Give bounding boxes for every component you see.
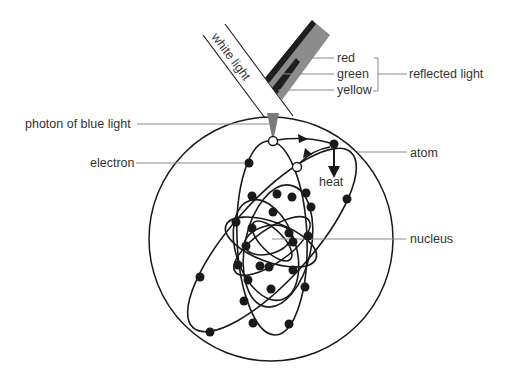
electron-dot [307, 203, 316, 212]
electron-dot [232, 218, 241, 227]
electron-dot [248, 224, 257, 233]
electron-dot [245, 159, 254, 168]
atom-light-diagram: white light red green yellow reflected l… [0, 0, 506, 383]
electron-dot [256, 262, 265, 271]
red-label: red [337, 51, 355, 65]
white-light-label: white light [208, 30, 254, 84]
excited-electron-open [269, 137, 278, 146]
photon-label: photon of blue light [25, 117, 131, 131]
reflected-light-beam [265, 20, 330, 100]
yellow-label: yellow [337, 83, 373, 97]
electron-dot [330, 140, 339, 149]
electron-dot [265, 263, 274, 272]
green-label: green [337, 67, 369, 81]
electron-dot [302, 189, 311, 198]
electron-dot [244, 276, 253, 285]
electron-dot [285, 320, 294, 329]
electron-label: electron [90, 156, 135, 170]
electron-dot [285, 229, 294, 238]
electron-dot [240, 297, 249, 306]
electron-dot [273, 190, 282, 199]
electron-dot [301, 283, 310, 292]
photon-icon [267, 113, 279, 137]
arrow-right-icon [298, 134, 308, 143]
electron-orbits [163, 126, 380, 355]
nucleus-label: nucleus [410, 232, 453, 246]
electron-dot [234, 261, 243, 270]
atom-label: atom [410, 146, 438, 160]
electron-dot [248, 192, 257, 201]
excited-electron-open [293, 163, 302, 172]
electron-dot [288, 193, 297, 202]
electron-dot [304, 232, 313, 241]
electron-dot [196, 273, 205, 282]
heat-label: heat [319, 175, 344, 189]
electron-dot [242, 242, 251, 251]
electron-dot [206, 328, 215, 337]
electron-dot [249, 319, 258, 328]
electron-dot [343, 195, 352, 204]
electron-dot [267, 285, 276, 294]
electron-dot [289, 266, 298, 275]
reflected-light-label: reflected light [409, 67, 484, 81]
electron-dot [289, 238, 298, 247]
electron-dot [269, 208, 278, 217]
